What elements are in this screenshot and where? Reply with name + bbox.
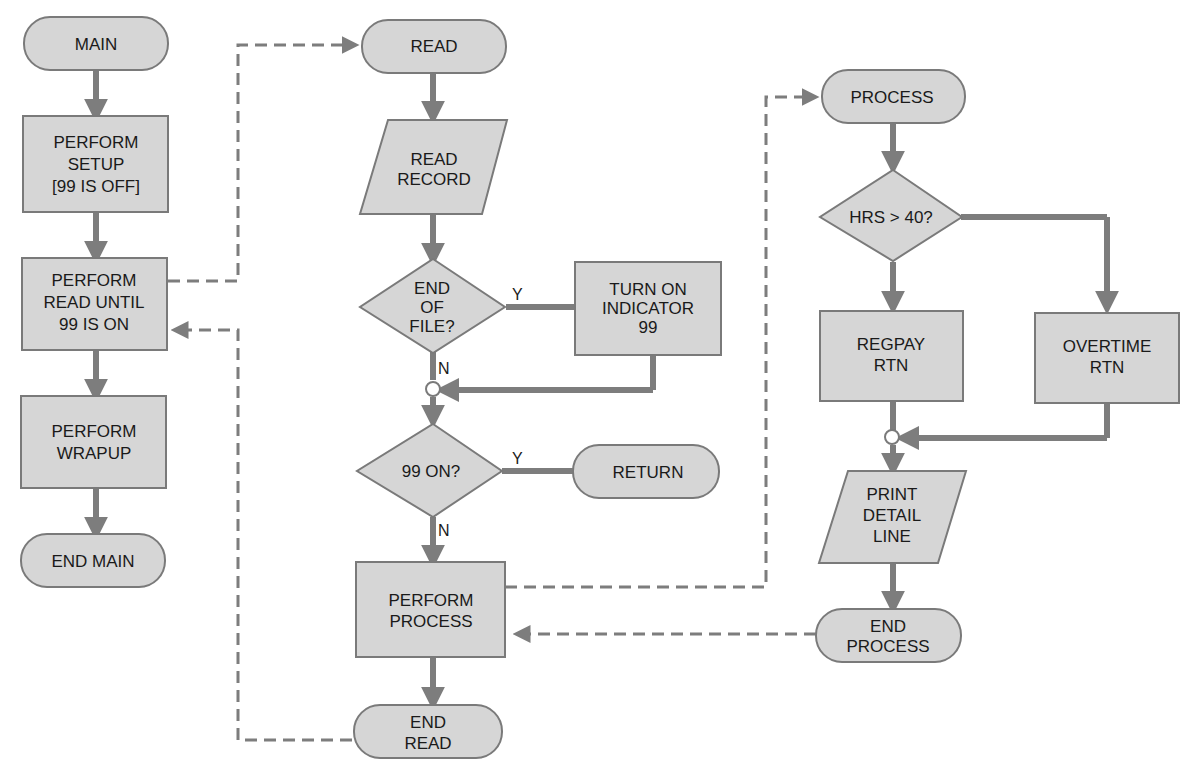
end-read-line-1: END	[410, 713, 446, 732]
regpay-rtn-line-2: RTN	[874, 356, 909, 375]
read-record-line-2: RECORD	[397, 170, 471, 189]
io-print-detail-line[interactable]: PRINT DETAIL LINE	[819, 471, 966, 563]
terminal-main[interactable]: MAIN	[24, 17, 168, 70]
print-detail-line-2: DETAIL	[863, 506, 921, 525]
print-detail-line-1: PRINT	[867, 485, 918, 504]
perform-setup-line-3: [99 IS OFF]	[52, 177, 140, 196]
process-perform-setup[interactable]: PERFORM SETUP [99 IS OFF]	[23, 116, 168, 212]
print-detail-line-3: LINE	[873, 527, 911, 546]
end-process-line-2: PROCESS	[846, 637, 929, 656]
terminal-main-label: MAIN	[75, 35, 118, 54]
io-read-record[interactable]: READ RECORD	[360, 120, 507, 214]
terminal-read-label: READ	[410, 37, 457, 56]
turn-on-indicator-line-1: TURN ON	[609, 280, 686, 299]
perform-read-line-3: 99 IS ON	[59, 315, 129, 334]
overtime-rtn-line-1: OVERTIME	[1063, 337, 1151, 356]
perform-process-line-1: PERFORM	[389, 591, 474, 610]
overtime-rtn-line-2: RTN	[1090, 358, 1125, 377]
terminal-read[interactable]: READ	[362, 20, 506, 73]
process-perform-wrapup[interactable]: PERFORM WRAPUP	[21, 396, 166, 488]
eof-yes-label: Y	[512, 286, 523, 303]
connector-circle-read	[426, 382, 440, 396]
connector-circle-process	[885, 430, 899, 444]
perform-wrapup-line-1: PERFORM	[52, 422, 137, 441]
terminal-end-read[interactable]: END READ	[354, 705, 502, 758]
process-regpay-rtn[interactable]: REGPAY RTN	[820, 311, 963, 401]
regpay-rtn-line-1: REGPAY	[857, 335, 925, 354]
end-of-file-line-2: OF	[420, 298, 444, 317]
process-turn-on-indicator[interactable]: TURN ON INDICATOR 99	[575, 262, 721, 355]
perform-read-line-2: READ UNTIL	[43, 293, 144, 312]
decision-end-of-file[interactable]: END OF FILE?	[360, 259, 505, 353]
process-perform-read[interactable]: PERFORM READ UNTIL 99 IS ON	[22, 258, 167, 350]
end-process-line-1: END	[870, 617, 906, 636]
perform-process-line-2: PROCESS	[389, 612, 472, 631]
on99-no-label: N	[438, 522, 450, 539]
decision-99-on[interactable]: 99 ON?	[357, 424, 502, 517]
end-of-file-line-1: END	[414, 279, 450, 298]
flowchart-canvas: MAIN PERFORM SETUP [99 IS OFF] PERFORM R…	[0, 0, 1190, 772]
99-on-label: 99 ON?	[402, 462, 461, 481]
terminal-process[interactable]: PROCESS	[822, 70, 965, 123]
perform-setup-line-1: PERFORM	[54, 133, 139, 152]
terminal-return-label: RETURN	[613, 463, 684, 482]
perform-setup-line-2: SETUP	[68, 155, 125, 174]
end-of-file-line-3: FILE?	[409, 317, 454, 336]
decision-hrs-gt-40[interactable]: HRS > 40?	[820, 170, 962, 261]
terminal-return[interactable]: RETURN	[573, 445, 719, 498]
process-overtime-rtn[interactable]: OVERTIME RTN	[1035, 313, 1179, 403]
perform-read-line-1: PERFORM	[52, 271, 137, 290]
end-read-line-2: READ	[404, 734, 451, 753]
process-perform-process[interactable]: PERFORM PROCESS	[356, 562, 505, 657]
terminal-end-main[interactable]: END MAIN	[21, 534, 165, 587]
terminal-end-main-label: END MAIN	[51, 552, 134, 571]
on99-yes-label: Y	[512, 450, 523, 467]
hrs-gt-40-label: HRS > 40?	[849, 208, 933, 227]
perform-wrapup-line-2: WRAPUP	[57, 444, 132, 463]
turn-on-indicator-line-3: 99	[639, 318, 658, 337]
read-record-line-1: READ	[410, 150, 457, 169]
terminal-end-process[interactable]: END PROCESS	[816, 609, 961, 662]
eof-no-label: N	[438, 360, 450, 377]
turn-on-indicator-line-2: INDICATOR	[602, 299, 694, 318]
terminal-process-label: PROCESS	[850, 88, 933, 107]
